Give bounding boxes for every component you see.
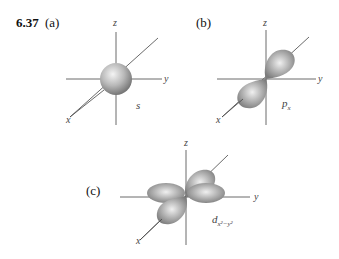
panel-a-y-label: y [164, 74, 168, 84]
problem-number: 6.37 [16, 16, 39, 29]
panel-c-y-label: y [254, 192, 258, 202]
panel-b-orbital-label: px [282, 98, 291, 112]
panel-b-z-label: z [263, 18, 267, 28]
px-lobe-back [265, 50, 295, 79]
px-lobe-front [237, 79, 267, 108]
panel-a-orbital-label: s [136, 100, 140, 111]
panel-c-label: (c) [86, 184, 100, 197]
panel-a-x-label: x [66, 115, 70, 125]
panel-b-x-label: x [216, 115, 220, 125]
panel-b-px-orbital [217, 30, 316, 125]
panel-c-z-label: z [184, 138, 188, 148]
panel-a-s-orbital [66, 32, 162, 125]
panel-b-y-label: y [318, 74, 322, 84]
dx2y2-lobe-right-y [187, 183, 225, 203]
panel-a-label: (a) [45, 16, 59, 29]
s-orbital-sphere [100, 63, 132, 95]
panel-b-label: (b) [196, 16, 211, 29]
orbital-figure [0, 0, 339, 259]
panel-c-orbital-label: dx²−y² [212, 214, 233, 228]
panel-c-x-label: x [136, 236, 140, 246]
panel-c-dx2y2-orbital [120, 150, 250, 245]
panel-a-z-label: z [113, 18, 117, 28]
